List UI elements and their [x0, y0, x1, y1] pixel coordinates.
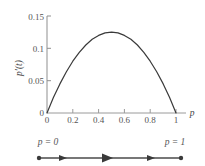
x-axis-label: p: [189, 108, 195, 118]
arrowhead-3: [147, 155, 155, 161]
x-axis-ticks: [73, 109, 176, 113]
equilibrium-point-p0: [37, 156, 41, 160]
x-tick-label-0.8: 0.8: [145, 115, 157, 125]
x-tick-labels: 0 0.2 0.4 0.6 0.8 1: [45, 115, 179, 125]
x-tick-label-1: 1: [174, 115, 179, 125]
x-tick-label-0.4: 0.4: [93, 115, 105, 125]
y-tick-label-0.1: 0.1: [33, 44, 44, 54]
equilibrium-point-p1: [179, 156, 183, 160]
x-tick-label-0.2: 0.2: [67, 115, 78, 125]
arrowhead-2: [102, 154, 113, 163]
y-tick-label-0.15: 0.15: [28, 12, 44, 22]
phase-line-diagram: p = 0 p = 1: [37, 137, 186, 162]
phase-label-right: p = 1: [164, 137, 186, 147]
phase-label-left: p = 0: [37, 137, 59, 147]
y-axis-ticks: [47, 16, 51, 81]
figure-svg: 0.15 0.1 0.05 0 0 0.2 0.4 0.6 0.8 1 p p′…: [0, 0, 205, 166]
x-tick-label-0: 0: [45, 115, 50, 125]
figure-container: 0.15 0.1 0.05 0 0 0.2 0.4 0.6 0.8 1 p p′…: [0, 0, 205, 166]
y-axis-label: p′(t): [14, 60, 25, 77]
y-tick-labels: 0.15 0.1 0.05 0: [28, 12, 44, 119]
x-tick-label-0.6: 0.6: [119, 115, 131, 125]
arrowhead-1: [59, 155, 67, 161]
plot-axes: [47, 16, 186, 113]
logistic-growth-curve: [47, 32, 176, 113]
y-tick-label-0.05: 0.05: [28, 76, 44, 86]
y-tick-label-0: 0: [40, 108, 45, 118]
